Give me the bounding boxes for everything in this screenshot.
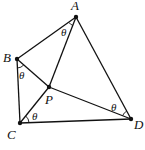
- vertex-C: [18, 121, 22, 125]
- angle-arc-D: [123, 111, 127, 116]
- segment-PD: [49, 87, 131, 119]
- segment-AB: [17, 17, 76, 59]
- angle-label-B: θ: [19, 69, 25, 81]
- geometry-diagram: θθθθABPCD: [0, 0, 145, 150]
- angle-label-A: θ: [61, 26, 67, 38]
- angle-arc-A: [69, 22, 73, 25]
- point-label-C: C: [7, 127, 16, 142]
- diagram-canvas: θθθθABPCD: [0, 0, 145, 150]
- point-label-P: P: [44, 92, 53, 107]
- point-label-A: A: [70, 0, 79, 13]
- angle-arc-C: [26, 116, 29, 123]
- vertex-A: [74, 15, 78, 19]
- angle-label-D: θ: [111, 101, 117, 113]
- vertex-B: [15, 57, 19, 61]
- point-label-B: B: [3, 50, 11, 65]
- angle-arc-B: [17, 65, 23, 68]
- angle-label-C: θ: [32, 110, 38, 122]
- vertex-P: [47, 85, 51, 89]
- segment-AD: [76, 17, 131, 119]
- vertex-D: [129, 117, 133, 121]
- point-label-D: D: [133, 117, 144, 132]
